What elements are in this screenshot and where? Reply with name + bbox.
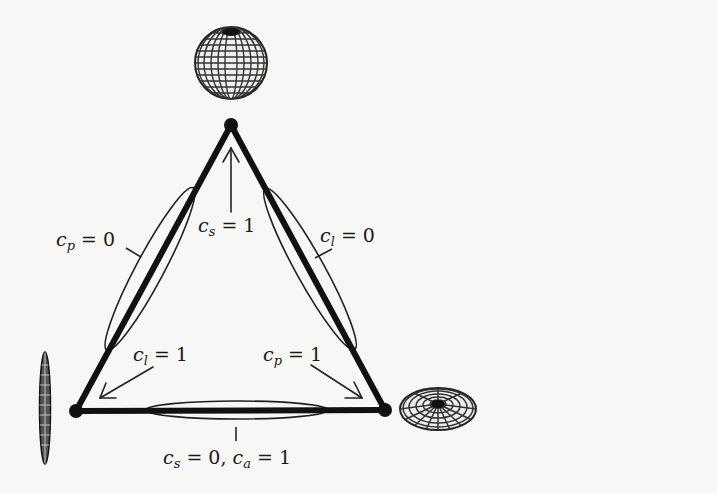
shape-space-diagram: cs = 1 cp = 0 cl = 0 cl = 1 cp = 1 cs = … [0,0,717,493]
label-eq: = 1 [257,446,291,468]
tick-cp0 [126,248,141,257]
label-cp-eq-0: cp = 0 [56,230,115,252]
label-sub: l [144,353,148,368]
arrow-to-top-icon [223,148,239,212]
label-sub: s [209,224,216,239]
label-sub: a [243,456,251,471]
label-sub: p [67,238,75,253]
label-eq: = 0 [341,224,375,246]
label-var: c [198,214,209,236]
label-cl-eq-0: cl = 0 [320,226,375,248]
label-sub: s [174,456,181,471]
label-var: c [133,343,144,365]
label-eq: = 1 [154,343,188,365]
arrow-to-bottom-left-icon [100,367,153,398]
label-eq: = 0 [81,228,115,250]
label-var: c [263,343,274,365]
edge-bottom [76,410,385,411]
label-cp-eq-1: cp = 1 [263,345,322,367]
label-sub: l [331,234,335,249]
vertex-bottom-right [378,403,392,417]
sphere-glyph-icon [190,27,272,99]
label-cl-eq-1: cl = 1 [133,345,188,367]
edge-top-right [231,125,385,410]
needle-glyph-icon [38,352,52,464]
label-cs-eq-0-ca-eq-1: cs = 0, ca = 1 [163,448,291,470]
label-eq: = 1 [221,214,255,236]
label-var: c [163,446,174,468]
arrow-to-bottom-right-icon [311,365,362,398]
label-cs-eq-1: cs = 1 [198,216,255,238]
vertex-top [224,118,238,132]
label-sub: p [274,353,282,368]
label-var: c [233,446,244,468]
vertex-bottom-left [69,404,83,418]
label-var: c [320,224,331,246]
label-eq: = 1 [288,343,322,365]
disc-glyph-icon [400,386,476,432]
edge-top-left [76,125,231,411]
label-var: c [56,228,67,250]
label-eq: = 0, [186,446,226,468]
